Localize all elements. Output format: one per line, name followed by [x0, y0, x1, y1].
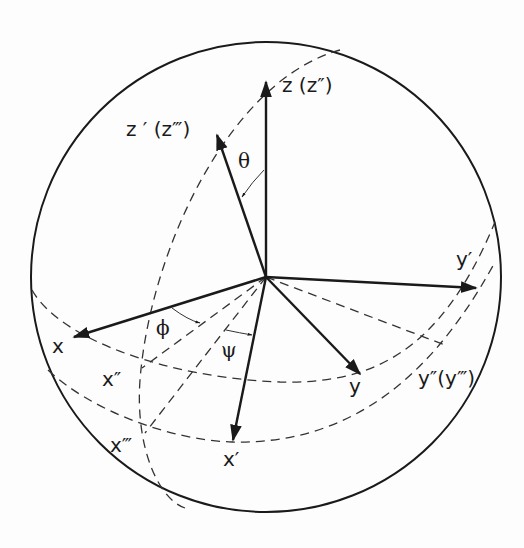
- euler-angle-diagram: z (z″) z ′ (z‴) y′ x x″ x‴ x′ y y″(y‴) θ…: [0, 0, 524, 548]
- ray-y-double: [266, 277, 445, 345]
- label-z: z (z″): [282, 73, 332, 97]
- phi-arc: [172, 308, 200, 323]
- angle-psi-label: ψ: [221, 338, 237, 362]
- axis-y: [266, 277, 360, 374]
- label-y: y: [349, 374, 361, 398]
- equator-original: [32, 222, 495, 382]
- theta-arc: [242, 170, 264, 197]
- ray-x-triple: [145, 277, 266, 433]
- angle-theta-label: θ: [238, 149, 250, 173]
- label-x: x: [52, 334, 64, 358]
- axis-y-prime: [266, 277, 476, 288]
- label-z-prime: z ′ (z‴): [126, 117, 190, 141]
- label-y-prime: y′: [456, 247, 473, 271]
- label-x-prime: x′: [223, 447, 240, 471]
- axis-x: [74, 277, 266, 337]
- label-y-double: y″(y‴): [418, 366, 475, 390]
- equator-rotated: [48, 262, 495, 442]
- label-x-triple: x‴: [110, 433, 132, 457]
- label-x-double: x″: [102, 367, 121, 391]
- psi-arc: [226, 330, 252, 335]
- angle-phi-label: ϕ: [156, 316, 170, 340]
- axis-x-prime: [233, 277, 266, 440]
